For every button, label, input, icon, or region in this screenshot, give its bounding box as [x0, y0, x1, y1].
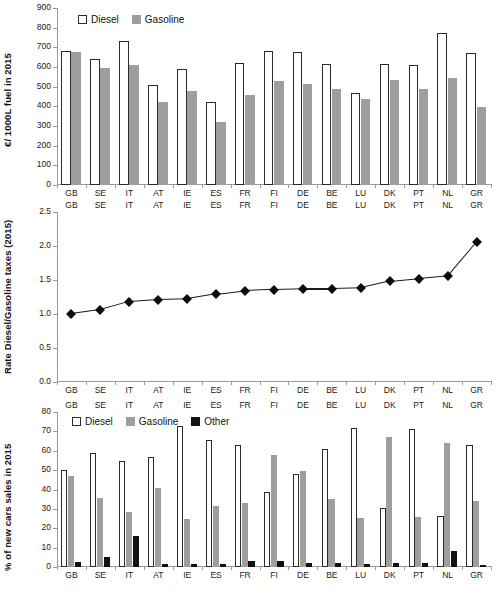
x-tick-label-fr: FR: [231, 189, 260, 198]
bar-other-be: [335, 563, 341, 567]
data-point-de: [298, 284, 308, 294]
x-tick-mark: [173, 566, 174, 570]
x-tick-label-lu: LU: [346, 189, 375, 198]
bar-gasoline-de: [303, 84, 313, 185]
top-label-es: ES: [202, 201, 231, 210]
y-axis-label-rate: Rate Diesel/Gasoline taxes (2015): [2, 212, 16, 382]
x-tick-label-fr: FR: [231, 386, 260, 395]
top-label-ie: IE: [173, 401, 202, 410]
x-tick-label-lu: LU: [346, 386, 375, 395]
x-tick-label-be: BE: [317, 386, 346, 395]
diesel-swatch-icon: [78, 15, 87, 24]
x-tick-label-gr: GR: [462, 571, 491, 580]
x-axis-rate: [57, 381, 491, 382]
bar-gasoline-lu: [361, 99, 371, 185]
bar-gasoline-lu: [357, 518, 363, 567]
bar-other-nl: [451, 551, 457, 567]
top-label-it: IT: [115, 201, 144, 210]
bar-diesel-de: [293, 52, 303, 185]
line-segment: [447, 241, 477, 276]
bar-gasoline-se: [97, 498, 103, 567]
bar-diesel-gb: [61, 51, 71, 185]
x-tick-label-fi: FI: [260, 189, 289, 198]
y-tick-label: 0: [15, 562, 51, 571]
y-tick-mark: [53, 509, 57, 510]
bar-gasoline-es: [213, 506, 219, 567]
top-label-gr: GR: [462, 401, 491, 410]
y-tick-mark: [53, 451, 57, 452]
bar-other-dk: [393, 563, 399, 567]
data-point-pt: [414, 274, 424, 284]
x-tick-mark: [491, 381, 492, 385]
bar-other-lu: [364, 564, 370, 567]
x-tick-mark: [202, 184, 203, 188]
y-tick-label: 700: [15, 42, 51, 51]
y-tick-label: 600: [15, 62, 51, 71]
top-label-de: DE: [288, 401, 317, 410]
x-tick-label-es: ES: [202, 571, 231, 580]
bar-gasoline-gb: [68, 476, 74, 567]
x-tick-label-nl: NL: [433, 386, 462, 395]
bar-diesel-gr: [466, 53, 476, 185]
y-tick-label: 40: [15, 485, 51, 494]
x-tick-mark: [288, 566, 289, 570]
x-tick-label-gb: GB: [57, 571, 86, 580]
x-tick-mark: [375, 381, 376, 385]
top-country-labels-rate: GBSEITATIEESFRFIDEBELUDKPTNLGR: [57, 200, 491, 212]
x-tick-mark: [115, 381, 116, 385]
x-tick-label-pt: PT: [404, 189, 433, 198]
top-label-fr: FR: [231, 201, 260, 210]
bar-gasoline-be: [328, 499, 334, 567]
data-point-es: [211, 289, 221, 299]
bar-gasoline-gb: [71, 52, 81, 185]
y-tick-label: 400: [15, 101, 51, 110]
top-label-fi: FI: [260, 201, 289, 210]
x-tick-label-se: SE: [86, 386, 115, 395]
diesel-swatch-icon: [72, 417, 81, 426]
x-tick-label-ie: IE: [173, 189, 202, 198]
x-tick-mark: [144, 566, 145, 570]
x-tick-mark: [317, 381, 318, 385]
y-tick-label: 1.5: [15, 275, 51, 284]
y-tick-label: 70: [15, 426, 51, 435]
bar-diesel-be: [322, 64, 332, 185]
data-point-gb: [67, 309, 77, 319]
bar-gasoline-fr: [242, 503, 248, 567]
x-tick-mark: [86, 381, 87, 385]
x-tick-mark: [260, 184, 261, 188]
y-tick-label: 200: [15, 141, 51, 150]
y-tick-label: 60: [15, 446, 51, 455]
x-tick-label-gr: GR: [462, 386, 491, 395]
x-tick-label-at: AT: [144, 571, 173, 580]
top-label-lu: LU: [346, 201, 375, 210]
top-label-be: BE: [317, 201, 346, 210]
x-tick-mark: [57, 381, 58, 385]
x-tick-label-dk: DK: [375, 386, 404, 395]
y-tick-mark: [53, 165, 57, 166]
bar-diesel-at: [148, 85, 158, 185]
top-label-fr: FR: [231, 401, 260, 410]
y-axis-label-fuel: €/ 1000L fuel in 2015: [2, 30, 16, 170]
y-tick-mark: [53, 348, 57, 349]
x-tick-mark: [317, 566, 318, 570]
bar-gasoline-pt: [415, 517, 421, 567]
data-point-fi: [269, 285, 279, 295]
bar-gasoline-nl: [444, 443, 450, 567]
x-tick-label-es: ES: [202, 386, 231, 395]
y-tick-label: 100: [15, 160, 51, 169]
bar-other-es: [220, 564, 226, 567]
top-label-nl: NL: [433, 401, 462, 410]
y-tick-mark: [53, 87, 57, 88]
bar-diesel-it: [119, 461, 125, 567]
y-tick-mark: [53, 47, 57, 48]
bar-other-pt: [422, 563, 428, 567]
bar-diesel-pt: [409, 429, 415, 567]
y-tick-label: 0.5: [15, 343, 51, 352]
bar-gasoline-dk: [386, 437, 392, 567]
bar-gasoline-gr: [477, 107, 487, 185]
bar-other-fi: [277, 561, 283, 567]
x-tick-mark: [173, 184, 174, 188]
x-tick-label-be: BE: [317, 571, 346, 580]
x-tick-label-es: ES: [202, 189, 231, 198]
legend-item-diesel: Diesel: [72, 416, 113, 427]
